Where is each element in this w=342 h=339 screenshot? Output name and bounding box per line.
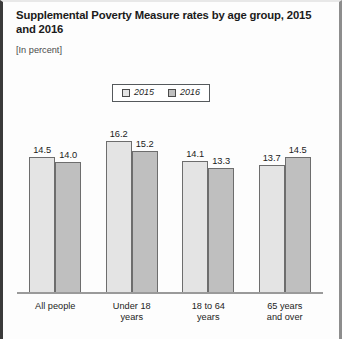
x-axis-line: [17, 292, 323, 294]
bar-group-18-to-64-years: 14.1 13.3: [170, 120, 247, 292]
x-tick-line2: and over: [247, 312, 324, 323]
bar-2016-all-people: 14.0: [55, 162, 81, 292]
bar-value-label: 14.0: [59, 150, 77, 160]
legend-label-2015: 2015: [134, 88, 154, 97]
bar-value-label: 14.5: [33, 145, 51, 155]
chart-legend: 2015 2016: [112, 84, 210, 102]
plot-area: 14.5 14.0 16.2 15.2: [17, 120, 323, 294]
bar-2015-all-people: 14.5: [29, 157, 55, 292]
bar-group-all-people: 14.5 14.0: [17, 120, 94, 292]
x-tick-line1: 65 years: [267, 301, 302, 311]
bar-2016-65-years-and-over: 14.5: [285, 157, 311, 292]
bar-wrap: 14.5: [285, 120, 311, 292]
bar-value-label: 13.3: [212, 156, 230, 166]
chart-subtitle-units: [In percent]: [16, 45, 326, 56]
x-tick-label-18-to-64-years: 18 to 64 years: [170, 301, 247, 323]
x-axis-category-labels: All people Under 18 years 18 to 64 years…: [17, 301, 323, 323]
legend-label-2016: 2016: [180, 88, 200, 97]
bar-2015-under-18-years: 16.2: [106, 141, 132, 292]
bar-value-label: 16.2: [110, 129, 128, 139]
legend-swatch-icon-2015: [122, 89, 130, 97]
bar-value-label: 14.5: [289, 145, 307, 155]
bar-2015-18-to-64-years: 14.1: [182, 161, 208, 292]
chart-title: Supplemental Poverty Measure rates by ag…: [16, 8, 326, 36]
bar-2015-65-years-and-over: 13.7: [259, 165, 285, 292]
x-tick-label-65-years-and-over: 65 years and over: [247, 301, 324, 323]
bar-wrap: 13.3: [208, 120, 234, 292]
bar-wrap: 15.2: [132, 120, 158, 292]
bar-groups: 14.5 14.0 16.2 15.2: [17, 120, 323, 292]
title-block: Supplemental Poverty Measure rates by ag…: [16, 8, 326, 56]
chart-figure: Supplemental Poverty Measure rates by ag…: [0, 0, 342, 339]
bar-value-label: 14.1: [186, 149, 204, 159]
x-tick-line1: Under 18: [113, 301, 151, 311]
bar-2016-18-to-64-years: 13.3: [208, 168, 234, 292]
bar-value-label: 13.7: [263, 153, 281, 163]
legend-entry-2016: 2016: [168, 88, 200, 97]
x-tick-label-under-18-years: Under 18 years: [94, 301, 171, 323]
x-tick-line2: years: [170, 312, 247, 323]
x-tick-label-all-people: All people: [17, 301, 94, 323]
bar-wrap: 14.5: [29, 120, 55, 292]
legend-swatch-icon-2016: [168, 89, 176, 97]
bar-2016-under-18-years: 15.2: [132, 151, 158, 292]
bar-group-under-18-years: 16.2 15.2: [94, 120, 171, 292]
bar-wrap: 16.2: [106, 120, 132, 292]
bar-wrap: 13.7: [259, 120, 285, 292]
bar-wrap: 14.1: [182, 120, 208, 292]
bar-wrap: 14.0: [55, 120, 81, 292]
bar-group-65-years-and-over: 13.7 14.5: [247, 120, 324, 292]
bar-value-label: 15.2: [136, 139, 154, 149]
x-tick-line1: 18 to 64: [192, 301, 225, 311]
x-tick-line2: years: [94, 312, 171, 323]
x-tick-line1: All people: [35, 301, 75, 311]
legend-entry-2015: 2015: [122, 88, 154, 97]
